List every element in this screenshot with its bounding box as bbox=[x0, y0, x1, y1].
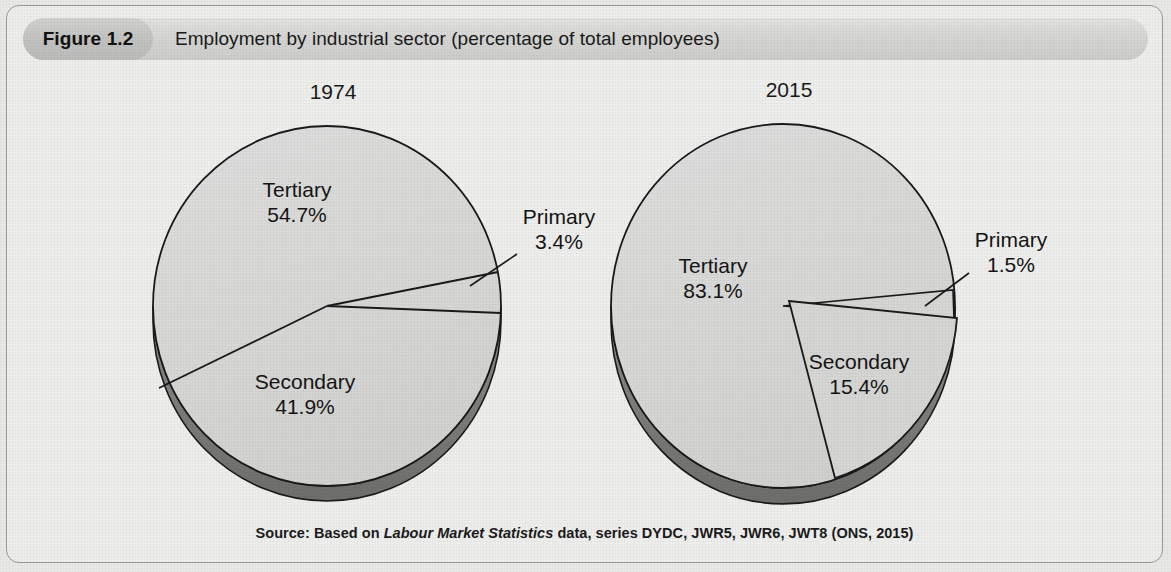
slice-label-tertiary-2015-value: 83.1% bbox=[623, 279, 803, 304]
slice-label-tertiary-1974-name: Tertiary bbox=[207, 178, 387, 203]
slice-label-primary-2015-name: Primary bbox=[951, 228, 1071, 253]
slice-label-tertiary-1974-value: 54.7% bbox=[207, 203, 387, 228]
slice-label-secondary-2015-value: 15.4% bbox=[759, 375, 959, 400]
slice-label-secondary-1974: Secondary 41.9% bbox=[205, 370, 405, 420]
slice-label-tertiary-2015: Tertiary 83.1% bbox=[623, 254, 803, 304]
slice-label-secondary-2015-name: Secondary bbox=[759, 350, 959, 375]
slice-label-secondary-2015: Secondary 15.4% bbox=[759, 350, 959, 400]
slice-label-primary-1974: Primary 3.4% bbox=[499, 205, 619, 255]
slice-label-tertiary-1974: Tertiary 54.7% bbox=[207, 178, 387, 228]
slice-label-secondary-1974-value: 41.9% bbox=[205, 395, 405, 420]
figure-number-label: Figure 1.2 bbox=[43, 28, 134, 50]
slice-label-tertiary-2015-name: Tertiary bbox=[623, 254, 803, 279]
charts-container: 1974 2015 bbox=[7, 68, 1163, 518]
figure-frame: Figure 1.2 Employment by industrial sect… bbox=[6, 5, 1163, 563]
slice-label-primary-2015: Primary 1.5% bbox=[951, 228, 1071, 278]
figure-title: Employment by industrial sector (percent… bbox=[175, 28, 720, 50]
source-suffix: data, series DYDC, JWR5, JWR6, JWT8 (ONS… bbox=[553, 525, 913, 541]
slice-label-primary-1974-name: Primary bbox=[499, 205, 619, 230]
slice-label-primary-2015-value: 1.5% bbox=[951, 253, 1071, 278]
pies-svg bbox=[7, 68, 1163, 518]
source-prefix: Source: Based on bbox=[256, 525, 384, 541]
pie-chart-2015 bbox=[611, 124, 969, 504]
source-publication-title: Labour Market Statistics bbox=[384, 525, 554, 541]
figure-header-bar: Figure 1.2 Employment by industrial sect… bbox=[23, 18, 1148, 60]
slice-label-secondary-1974-name: Secondary bbox=[205, 370, 405, 395]
source-note: Source: Based on Labour Market Statistic… bbox=[7, 525, 1162, 541]
slice-label-primary-1974-value: 3.4% bbox=[499, 230, 619, 255]
figure-number-chip: Figure 1.2 bbox=[23, 18, 153, 60]
